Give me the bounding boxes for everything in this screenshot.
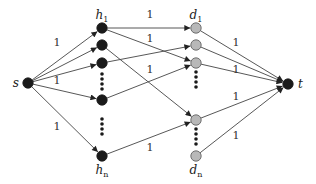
node-label-s: s bbox=[13, 76, 19, 90]
ellipsis-dot-icon bbox=[100, 77, 104, 81]
node-dn bbox=[191, 151, 201, 161]
ellipsis-dot-icon bbox=[100, 122, 104, 126]
node-s bbox=[23, 78, 33, 88]
node-label-t: t bbox=[298, 77, 303, 91]
edge-capacity-label: 1 bbox=[233, 90, 240, 103]
node-d3 bbox=[191, 58, 201, 68]
node-h3 bbox=[97, 58, 107, 68]
node-h2 bbox=[97, 40, 107, 50]
ellipsis-dot-icon bbox=[100, 82, 104, 86]
edge-capacity-label: 1 bbox=[54, 120, 61, 133]
ellipsis-dot-icon bbox=[194, 85, 198, 89]
edge-d2-t bbox=[201, 47, 283, 82]
node-d1 bbox=[191, 23, 201, 33]
edge-capacity-label: 1 bbox=[54, 36, 61, 49]
node-label-h1: h1 bbox=[96, 8, 109, 24]
ellipsis-dot-icon bbox=[194, 80, 198, 84]
edge-capacity-label: 1 bbox=[147, 63, 154, 76]
ellipsis-dot-icon bbox=[194, 132, 198, 136]
edge-capacity-label: 1 bbox=[233, 129, 240, 142]
edge-capacity-label: 1 bbox=[233, 63, 240, 76]
ellipsis-dot-icon bbox=[194, 142, 198, 146]
nodes-layer bbox=[23, 23, 293, 161]
edge-capacity-label: 1 bbox=[54, 74, 61, 87]
node-h1 bbox=[97, 23, 107, 33]
edge-capacity-label: 1 bbox=[147, 141, 154, 154]
ellipsis-dot-icon bbox=[100, 127, 104, 131]
flow-network-diagram: 11111111111sh1hnd1dnt bbox=[0, 0, 316, 184]
node-h4 bbox=[97, 95, 107, 105]
edge-h3-d2 bbox=[107, 46, 190, 62]
node-label-dn: dn bbox=[190, 163, 203, 179]
edge-d4-t bbox=[201, 86, 283, 118]
edge-dn-t bbox=[200, 88, 283, 153]
ellipsis-dot-icon bbox=[194, 127, 198, 131]
node-label-hn: hn bbox=[96, 163, 109, 179]
edge-h2-d4 bbox=[106, 48, 191, 116]
ellipsis-dot-icon bbox=[100, 87, 104, 91]
node-label-d1: d1 bbox=[190, 8, 203, 24]
edge-capacity-label: 1 bbox=[147, 32, 154, 45]
labels-layer: 11111111111sh1hnd1dnt bbox=[13, 8, 303, 179]
ellipsis-dot-icon bbox=[194, 75, 198, 79]
node-t bbox=[283, 79, 293, 89]
node-d2 bbox=[191, 40, 201, 50]
edges-layer bbox=[32, 28, 284, 154]
ellipsis-dot-icon bbox=[194, 137, 198, 141]
edge-s-h4 bbox=[33, 84, 96, 99]
edge-capacity-label: 1 bbox=[233, 36, 240, 49]
edge-s-h2 bbox=[33, 48, 97, 81]
ellipsis-dot-icon bbox=[194, 70, 198, 74]
node-hn bbox=[97, 151, 107, 161]
edge-s-h3 bbox=[33, 64, 96, 81]
edge-capacity-label: 1 bbox=[147, 8, 154, 21]
ellipsis-dot-icon bbox=[100, 117, 104, 121]
ellipsis-dot-icon bbox=[100, 132, 104, 136]
node-d4 bbox=[191, 115, 201, 125]
ellipsis-dot-icon bbox=[100, 72, 104, 76]
